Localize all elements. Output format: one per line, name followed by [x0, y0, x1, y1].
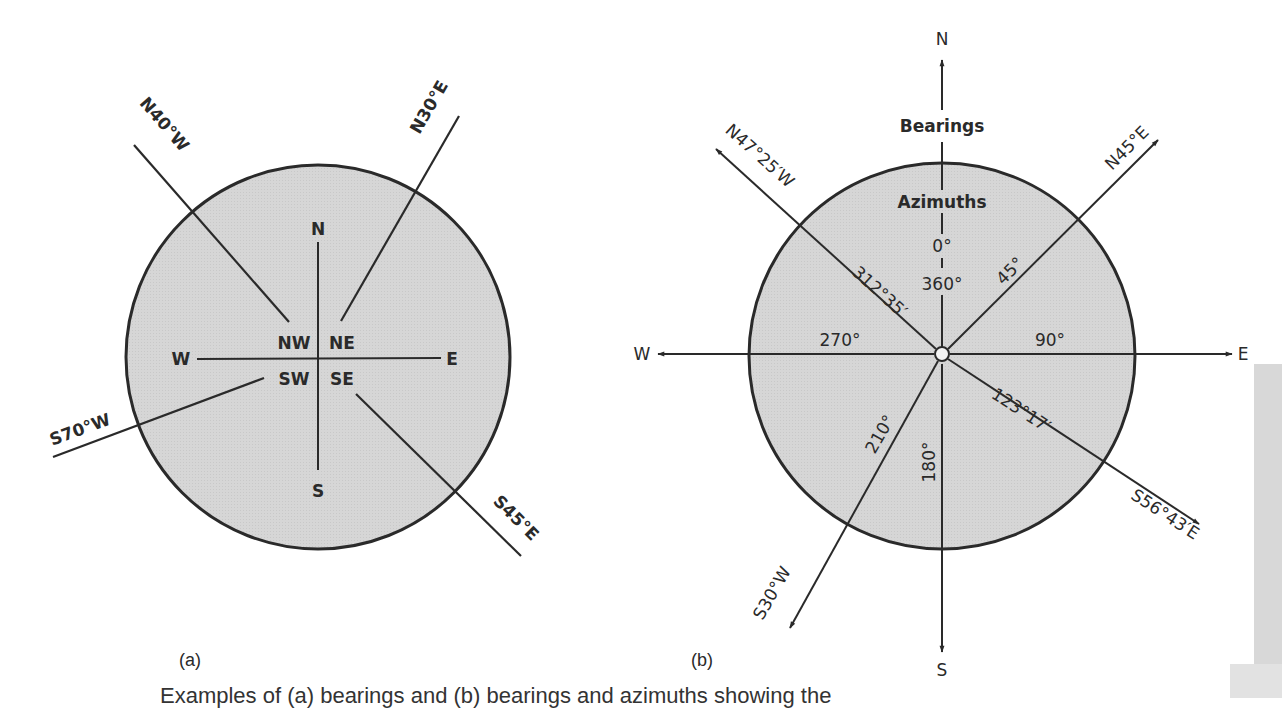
panel-a-se-label: SE	[330, 369, 354, 389]
panel-b-azimuth-360: 360°	[922, 274, 963, 294]
panel-b-bearings-heading: Bearings	[900, 116, 985, 136]
panel-b-center-point	[935, 347, 949, 361]
panel-b-azimuth-270: 270°	[820, 330, 861, 350]
panel-a-ew-line	[197, 358, 441, 359]
panel-a-south-label: S	[312, 481, 324, 501]
figure-caption: Examples of (a) bearings and (b) bearing…	[160, 683, 831, 709]
panel-b-bearing-s30w: S30°W	[749, 563, 795, 623]
panel-b-bearing-s56-43e: S56°43′E	[1127, 485, 1203, 544]
panel-b-north-label: N	[936, 29, 949, 49]
panel-b-west-label: W	[634, 344, 651, 364]
panel-a-north-label: N	[311, 219, 325, 239]
panel-b-azimuths-heading: Azimuths	[897, 192, 986, 212]
panel-b: N S W E Bearings Azimuths 0° 360° 90° 27…	[634, 29, 1249, 680]
panel-a-bearing-n30e: N30°E	[406, 77, 452, 137]
panel-b-azimuth-0: 0°	[932, 236, 951, 256]
panel-b-bearing-n45e: N45°E	[1101, 122, 1153, 174]
panel-b-label: (b)	[691, 650, 713, 670]
panel-b-azimuth-180: 180°	[919, 442, 939, 483]
panel-a-west-label: W	[172, 349, 191, 369]
panel-a-label: (a)	[179, 650, 201, 670]
page-edge-shadow	[1254, 364, 1282, 664]
panel-b-south-label: S	[937, 660, 948, 680]
panel-a: N S W E NW NE SW SE N40°W N30°E S70°W S4…	[47, 77, 543, 670]
panel-a-bearing-s45e: S45°E	[489, 491, 543, 545]
panel-a-sw-label: SW	[279, 369, 310, 389]
panel-a-bearing-n40w: N40°W	[136, 93, 194, 155]
panel-a-east-label: E	[446, 349, 458, 369]
page-edge-shadow-lower	[1230, 664, 1282, 698]
panel-a-ne-label: NE	[329, 333, 355, 353]
panel-b-azimuth-90: 90°	[1035, 330, 1065, 350]
panel-b-east-label: E	[1238, 344, 1249, 364]
panel-a-nw-label: NW	[278, 333, 311, 353]
panel-b-bearing-n47-25w: N47°25′W	[722, 120, 799, 192]
panel-a-bearing-s70w: S70°W	[47, 409, 113, 449]
